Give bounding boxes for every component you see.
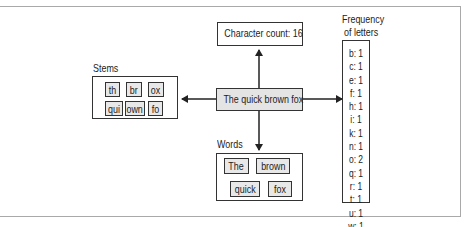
word-chip: quick — [230, 181, 260, 197]
character-count-text: Character count: 16 — [224, 27, 295, 39]
stem-label: br — [130, 84, 138, 96]
stem-chip: ox — [148, 82, 164, 97]
word-label: The — [229, 160, 244, 172]
frequency-item: w: 1 — [345, 220, 367, 227]
stem-chip: br — [126, 82, 142, 97]
word-chip: fox — [268, 181, 292, 197]
frequency-item: e: 1 — [345, 74, 367, 87]
frequency-item: r: 1 — [345, 180, 367, 193]
frequency-item: b: 1 — [345, 47, 367, 60]
input-sentence-box: The quick brown fox — [216, 88, 303, 111]
frequency-item: u: 1 — [345, 207, 367, 220]
word-label: quick — [235, 183, 256, 195]
frequency-item: q: 1 — [345, 167, 367, 180]
word-chip: brown — [256, 158, 290, 174]
frequency-item: h: 1 — [345, 100, 367, 113]
frequency-title-line2: of letters — [344, 26, 378, 38]
word-label: fox — [274, 183, 286, 195]
stem-label: fo — [152, 103, 159, 115]
frequency-item: i: 1 — [345, 113, 367, 126]
stem-label: ox — [151, 84, 160, 96]
frequency-list: b: 1 c: 1 e: 1 f: 1 h: 1 i: 1 k: 1 n: 1 … — [343, 47, 369, 227]
frequency-item: c: 1 — [345, 60, 367, 73]
input-sentence-text: The quick brown fox — [223, 93, 295, 105]
frequency-title-line1: Frequency — [342, 13, 384, 25]
frequency-box: b: 1 c: 1 e: 1 f: 1 h: 1 i: 1 k: 1 n: 1 … — [342, 40, 370, 203]
frequency-item: n: 1 — [345, 140, 367, 153]
word-label: brown — [261, 160, 285, 172]
word-chip: The — [224, 158, 249, 174]
stems-title: Stems — [93, 62, 118, 74]
frequency-item: t: 1 — [345, 193, 367, 206]
stem-chip: fo — [148, 101, 163, 116]
words-title: Words — [217, 138, 243, 150]
stem-chip: own — [125, 101, 145, 116]
frequency-item: k: 1 — [345, 127, 367, 140]
stem-label: qui — [108, 103, 120, 115]
frequency-item: o: 2 — [345, 153, 367, 166]
frequency-item: f: 1 — [345, 87, 367, 100]
stem-chip: qui — [105, 101, 123, 116]
character-count-box: Character count: 16 — [217, 22, 303, 46]
stem-label: th — [109, 84, 116, 96]
stem-chip: th — [105, 82, 120, 97]
stem-label: own — [127, 103, 143, 115]
